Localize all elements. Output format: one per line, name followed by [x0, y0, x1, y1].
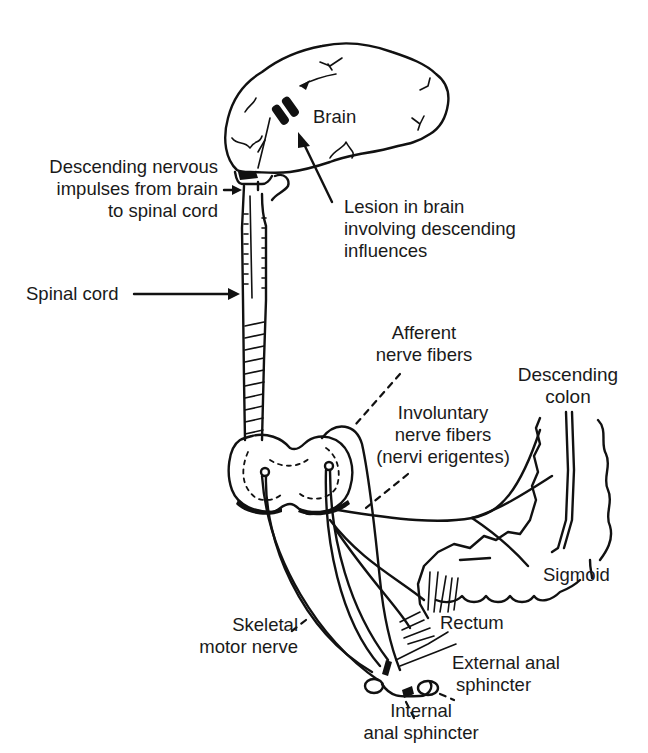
label-rectum: Rectum: [440, 612, 504, 634]
label-line: Lesion in brain: [344, 196, 516, 218]
label-line: nerve fibers: [354, 344, 494, 366]
spinal-cord-illustration: [242, 186, 266, 440]
label-line: nerve fibers: [368, 424, 518, 446]
label-line: Internal: [346, 700, 496, 722]
label-line: External anal: [452, 652, 560, 674]
label-involuntary-fibers: Involuntary nerve fibers (nervi erigente…: [368, 402, 518, 468]
label-line: Skeletal: [170, 614, 298, 636]
label-descending-impulses: Descending nervous impulses from brain t…: [26, 156, 218, 222]
label-skeletal-motor-nerve: Skeletal motor nerve: [170, 614, 298, 658]
label-afferent-fibers: Afferent nerve fibers: [354, 322, 494, 366]
label-internal-anal-sphincter: Internal anal sphincter: [346, 700, 496, 744]
label-line: impulses from brain: [26, 178, 218, 200]
label-line: to spinal cord: [26, 200, 218, 222]
label-line: Descending: [508, 364, 628, 386]
label-line: sphincter: [452, 674, 560, 696]
label-line: Descending nervous: [26, 156, 218, 178]
label-line: (nervi erigentes): [368, 446, 518, 468]
label-descending-colon: Descending colon: [508, 364, 628, 408]
spinal-cross-section: [229, 435, 353, 516]
label-line: anal sphincter: [346, 722, 496, 744]
label-line: Involuntary: [368, 402, 518, 424]
label-line: Afferent: [354, 322, 494, 344]
label-line: colon: [508, 386, 628, 408]
label-lesion: Lesion in brain involving descending inf…: [344, 196, 516, 262]
label-spinal-cord: Spinal cord: [26, 283, 119, 305]
label-brain: Brain: [313, 106, 356, 128]
label-sigmoid: Sigmoid: [543, 564, 610, 586]
label-line: influences: [344, 240, 516, 262]
label-external-anal-sphincter: External anal sphincter: [452, 652, 560, 696]
label-line: motor nerve: [170, 636, 298, 658]
label-line: involving descending: [344, 218, 516, 240]
